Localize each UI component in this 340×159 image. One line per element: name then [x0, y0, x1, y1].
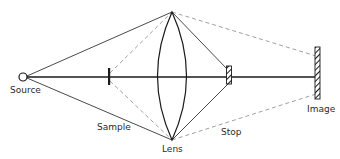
- label-image: Image: [307, 104, 336, 114]
- label-stop: Stop: [221, 127, 242, 137]
- label-source: Source: [10, 85, 41, 95]
- lens: [158, 12, 187, 140]
- label-sample: Sample: [97, 122, 131, 132]
- stop-aperture: [227, 66, 232, 84]
- image-screen: [315, 47, 320, 99]
- source-point: [19, 73, 27, 81]
- illumination-rays: [27, 12, 228, 140]
- sample-slide: [108, 68, 110, 85]
- imaging-rays: [110, 12, 316, 140]
- optical-diagram: Source Sample Lens Stop Image: [0, 0, 340, 159]
- label-lens: Lens: [162, 144, 183, 154]
